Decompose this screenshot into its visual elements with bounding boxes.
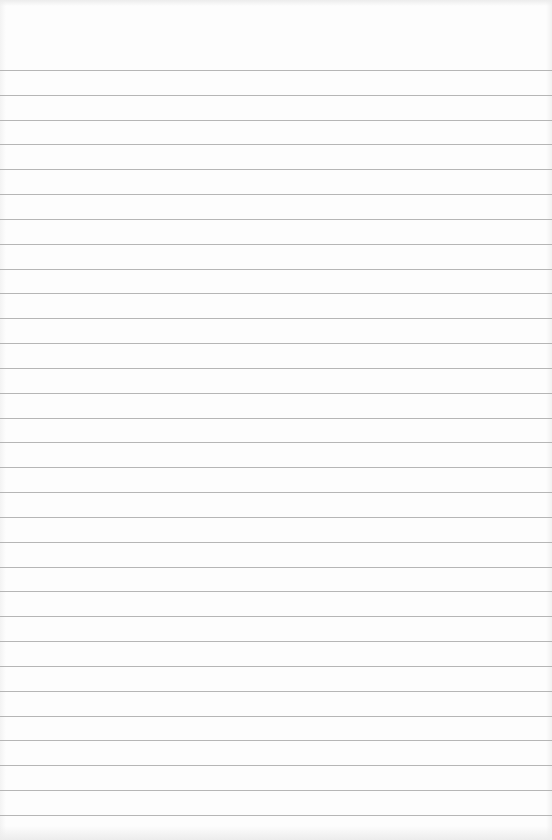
ruled-line bbox=[0, 467, 552, 468]
ruled-line bbox=[0, 219, 552, 220]
ruled-line bbox=[0, 393, 552, 394]
ruled-line bbox=[0, 492, 552, 493]
ruled-line bbox=[0, 517, 552, 518]
ruled-line bbox=[0, 691, 552, 692]
ruled-line bbox=[0, 616, 552, 617]
ruled-line bbox=[0, 666, 552, 667]
ruled-line bbox=[0, 765, 552, 766]
ruled-line bbox=[0, 641, 552, 642]
ruled-line bbox=[0, 169, 552, 170]
ruled-line bbox=[0, 244, 552, 245]
ruled-line bbox=[0, 716, 552, 717]
ruled-line bbox=[0, 144, 552, 145]
ruled-line bbox=[0, 269, 552, 270]
notepad-page bbox=[0, 0, 552, 840]
ruled-line bbox=[0, 790, 552, 791]
ruled-line bbox=[0, 70, 552, 71]
ruled-line bbox=[0, 343, 552, 344]
ruled-line bbox=[0, 815, 552, 816]
ruled-line bbox=[0, 567, 552, 568]
ruled-line bbox=[0, 442, 552, 443]
ruled-line bbox=[0, 368, 552, 369]
paper-bottom-edge bbox=[0, 826, 552, 840]
ruled-line bbox=[0, 95, 552, 96]
paper-top-edge bbox=[0, 0, 552, 6]
ruled-line bbox=[0, 591, 552, 592]
ruled-line bbox=[0, 418, 552, 419]
ruled-line bbox=[0, 293, 552, 294]
ruled-line bbox=[0, 318, 552, 319]
ruled-line bbox=[0, 740, 552, 741]
ruled-line bbox=[0, 194, 552, 195]
ruled-line bbox=[0, 542, 552, 543]
ruled-line bbox=[0, 120, 552, 121]
